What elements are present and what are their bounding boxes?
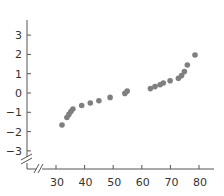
data-point	[88, 100, 94, 106]
data-point	[182, 69, 188, 75]
scatter-chart: 3210−1−2−3 304050607080	[0, 0, 224, 196]
x-tick-label: 40	[79, 176, 93, 189]
data-point	[192, 52, 198, 58]
data-point	[185, 62, 191, 68]
data-points	[59, 52, 198, 128]
data-point	[161, 80, 167, 86]
y-tick-label: 2	[15, 48, 22, 61]
x-tick-label: 70	[164, 176, 178, 189]
x-tick-label: 80	[193, 176, 207, 189]
data-point	[107, 95, 113, 101]
data-point	[124, 88, 130, 94]
y-tick-label: 1	[15, 68, 22, 81]
data-point	[152, 84, 158, 90]
axes	[21, 20, 214, 173]
data-point	[96, 98, 102, 104]
x-tick-label: 50	[107, 176, 121, 189]
y-tick-label: −3	[6, 145, 22, 158]
data-point	[79, 103, 85, 109]
data-point	[70, 106, 76, 112]
y-tick-label: −1	[6, 106, 22, 119]
x-tick-label: 30	[50, 176, 64, 189]
y-tick-label: 3	[15, 29, 22, 42]
x-tick-label: 60	[136, 176, 150, 189]
y-tick-label: 0	[15, 87, 22, 100]
y-tick-label: −2	[6, 126, 22, 139]
data-point	[59, 122, 65, 128]
data-point	[167, 78, 173, 84]
